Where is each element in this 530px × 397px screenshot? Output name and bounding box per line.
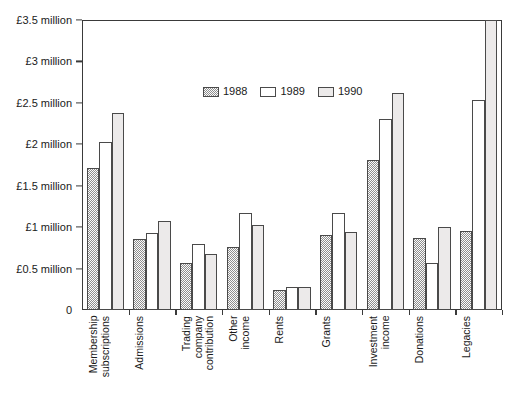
bar-1988-8 [460, 231, 473, 310]
x-axis-category-line: Rents [274, 316, 286, 343]
x-axis-tick-mark [269, 310, 270, 315]
x-axis-tick-mark [362, 310, 363, 315]
x-axis-category-line: Admissions [134, 316, 146, 370]
legend-swatch-icon [260, 87, 276, 97]
bar-1990-5 [345, 232, 358, 310]
x-axis-category-label: Tradingcompanycontribution [181, 316, 216, 370]
x-axis-tick-mark [502, 310, 503, 315]
bar-1988-7 [413, 238, 426, 310]
bar-1990-0 [112, 113, 125, 310]
legend-swatch-icon [318, 87, 334, 97]
x-axis: MembershipsubscriptionsAdmissionsTrading… [0, 310, 530, 397]
bar-1990-6 [392, 93, 405, 310]
x-axis-category-line: contribution [204, 316, 216, 370]
x-axis-category-label: Admissions [134, 316, 146, 370]
x-axis-category-line: Investment [368, 316, 380, 367]
legend: 198819891990 [203, 86, 362, 97]
x-axis-category-line: Donations [414, 316, 426, 363]
x-axis-category-label: Donations [414, 316, 426, 363]
bar-1988-4 [273, 290, 286, 310]
bar-1989-0 [99, 142, 112, 310]
x-axis-category-label: Grants [321, 316, 333, 348]
bar-1989-2 [192, 244, 205, 310]
legend-label: 1989 [280, 86, 304, 97]
x-axis-category-line: income [239, 316, 251, 350]
bar-1989-5 [332, 213, 345, 310]
bar-1988-1 [133, 239, 146, 310]
bar-1989-3 [239, 213, 252, 310]
legend-entry-1988: 1988 [203, 86, 247, 97]
legend-entry-1990: 1990 [318, 86, 362, 97]
bar-1990-2 [205, 254, 218, 310]
bar-1990-1 [158, 221, 171, 310]
x-axis-tick-mark [409, 310, 410, 315]
x-axis-tick-mark [455, 310, 456, 315]
bar-1988-6 [367, 160, 380, 310]
bar-1990-7 [438, 227, 451, 310]
bar-1990-4 [298, 287, 311, 310]
bar-chart: £3.5 million£3 million£2.5 million£2 mil… [0, 0, 530, 397]
bar-1990-3 [252, 225, 265, 310]
legend-entry-1989: 1989 [260, 86, 304, 97]
x-axis-category-label: Legacies [461, 316, 473, 358]
x-axis-category-label: Otherincome [228, 316, 251, 350]
x-axis-category-line: Other [228, 316, 240, 350]
bar-1989-6 [379, 119, 392, 310]
bar-1989-7 [426, 263, 439, 310]
bar-1990-8 [485, 20, 498, 310]
bar-1989-1 [146, 233, 159, 310]
x-axis-category-line: Legacies [461, 316, 473, 358]
bar-1988-0 [87, 168, 100, 310]
x-axis-tick-mark [129, 310, 130, 315]
x-axis-category-label: Investmentincome [368, 316, 391, 367]
bar-1989-8 [472, 100, 485, 310]
bar-1989-4 [286, 287, 299, 310]
bar-1988-3 [227, 247, 240, 310]
x-axis-category-line: income [379, 316, 391, 367]
x-axis-category-line: Membership [88, 316, 100, 377]
x-axis-category-label: Membershipsubscriptions [88, 316, 111, 377]
x-axis-tick-mark [175, 310, 176, 315]
bar-1988-5 [320, 235, 333, 310]
x-axis-tick-mark [222, 310, 223, 315]
legend-swatch-icon [203, 87, 219, 97]
legend-label: 1990 [338, 86, 362, 97]
x-axis-tick-mark [315, 310, 316, 315]
x-axis-category-line: subscriptions [99, 316, 111, 377]
x-axis-category-label: Rents [274, 316, 286, 343]
bar-1988-2 [180, 263, 193, 310]
legend-label: 1988 [223, 86, 247, 97]
x-axis-category-line: Grants [321, 316, 333, 348]
